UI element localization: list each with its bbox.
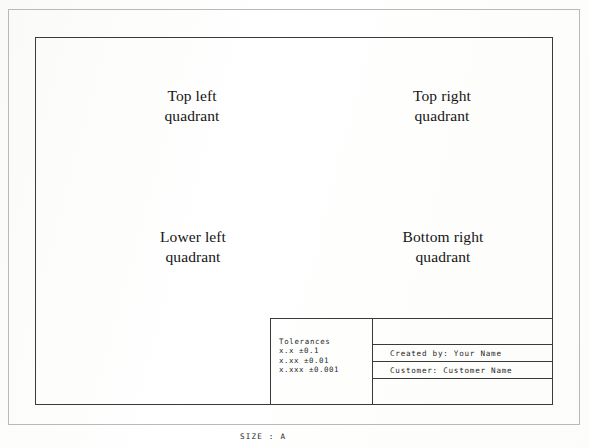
quadrant-label-lower-left: Lower left quadrant (110, 227, 276, 267)
title-block-row-created-by[interactable]: Created by: Your Name (373, 345, 552, 362)
quadrant-bottom-right-line1: Bottom right (352, 227, 534, 247)
quadrant-top-left-line1: Top left (112, 86, 272, 106)
tolerance-cell: Tolerances x.x ±0.1 x.xx ±0.01 x.xxx ±0.… (271, 319, 373, 404)
tolerance-heading: Tolerances (279, 337, 339, 346)
quadrant-lower-left-line2: quadrant (110, 247, 276, 267)
quadrant-lower-left-line1: Lower left (110, 227, 276, 247)
drawing-sheet: Top left quadrant Top right quadrant Low… (0, 0, 589, 448)
quadrant-top-right-line1: Top right (362, 86, 522, 106)
title-block-info-column: Created by: Your Name Customer: Customer… (373, 319, 552, 404)
title-block: Tolerances x.x ±0.1 x.xx ±0.01 x.xxx ±0.… (270, 318, 553, 405)
tolerance-row-2: x.xx ±0.01 (279, 356, 339, 365)
title-block-row-blank-bottom[interactable] (373, 379, 552, 404)
quadrant-bottom-right-line2: quadrant (352, 247, 534, 267)
tolerance-row-1: x.x ±0.1 (279, 346, 339, 355)
sheet-size-caption: SIZE : A (240, 432, 286, 441)
title-block-row-blank-top[interactable] (373, 319, 552, 345)
quadrant-label-bottom-right: Bottom right quadrant (352, 227, 534, 267)
title-block-row-customer[interactable]: Customer: Customer Name (373, 362, 552, 379)
tolerance-row-3: x.xxx ±0.001 (279, 365, 339, 374)
quadrant-top-right-line2: quadrant (362, 106, 522, 126)
tolerance-list: Tolerances x.x ±0.1 x.xx ±0.01 x.xxx ±0.… (279, 337, 339, 374)
quadrant-top-left-line2: quadrant (112, 106, 272, 126)
quadrant-label-top-right: Top right quadrant (362, 86, 522, 126)
quadrant-label-top-left: Top left quadrant (112, 86, 272, 126)
